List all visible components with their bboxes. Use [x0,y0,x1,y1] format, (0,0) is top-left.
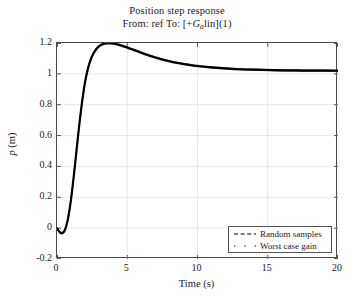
x-tick-label: 10 [192,262,202,274]
x-tick-label: 5 [124,262,129,274]
y-axis-label-unit: (m) [6,132,17,147]
legend-swatch-dashed-icon [232,229,258,239]
x-tick-label: 0 [54,262,59,274]
y-tick-label: 0.8 [6,99,52,109]
y-tick-label: 1 [6,68,52,78]
chart-legend[interactable]: Random samples Worst case gain [228,226,332,253]
legend-label-worst-case-gain: Worst case gain [258,241,317,251]
legend-item-random-samples[interactable]: Random samples [229,228,331,240]
legend-item-worst-case-gain[interactable]: Worst case gain [229,240,331,252]
legend-swatch-dotted-icon [232,241,258,251]
chart-figure: Position step response From: ref To: [+G… [0,0,354,306]
x-tick-label: 20 [332,262,342,274]
x-axis-label: Time (s) [56,278,337,290]
x-axis-tick-labels: 05101520 [56,262,337,276]
legend-label-random-samples: Random samples [258,229,322,239]
y-axis-label-var: p [6,150,17,155]
subtitle-subscript: a [200,22,204,31]
subtitle-pre: From: ref To: [+ [123,18,193,29]
chart-subtitle: From: ref To: [+Galin](1) [0,17,354,33]
chart-title: Position step response [0,4,354,17]
subtitle-post: lin](1) [204,18,232,29]
y-tick-label: 0.2 [6,191,52,201]
x-tick-label: 15 [262,262,272,274]
y-axis-label: p (m) [6,114,18,174]
y-tick-label: 0 [6,222,52,232]
y-tick-label: 1.2 [6,37,52,47]
chart-title-block: Position step response From: ref To: [+G… [0,4,354,33]
y-tick-label: -0.2 [6,253,52,263]
subtitle-var: G [192,18,200,29]
